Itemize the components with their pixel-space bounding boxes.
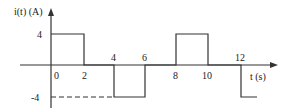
x-tick-10: 10: [202, 70, 212, 81]
y-axis-label: i(t) (A): [14, 6, 43, 18]
y-axis-arrow-icon: [48, 8, 54, 16]
y-tick-neg4: -4: [31, 92, 39, 103]
x-tick-8: 8: [173, 70, 178, 81]
x-axis-arrow-icon: [270, 62, 278, 68]
x-tick-12: 12: [235, 52, 245, 63]
current-waveform-chart: i(t) (A) t (s) 4 -4 0 2 4 6 8 10 12: [0, 0, 285, 112]
x-tick-6: 6: [142, 52, 147, 63]
x-tick-2: 2: [82, 70, 87, 81]
x-tick-0: 0: [54, 70, 59, 81]
y-tick-4: 4: [37, 29, 42, 40]
x-tick-4: 4: [111, 52, 116, 63]
x-axis-label: t (s): [250, 71, 266, 83]
